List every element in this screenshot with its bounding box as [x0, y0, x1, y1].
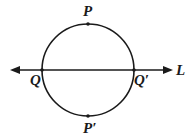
label-line-l: L — [175, 62, 185, 78]
label-p: P — [83, 3, 93, 19]
label-p-prime: P′ — [83, 120, 96, 136]
label-q: Q — [30, 72, 41, 88]
point-p-prime-dot — [86, 114, 90, 118]
arrowhead-right-icon — [163, 66, 173, 74]
point-p-dot — [86, 22, 90, 26]
diagram-canvas: P P′ Q Q′ L — [0, 0, 193, 140]
label-q-prime: Q′ — [134, 72, 149, 88]
arrowhead-left-icon — [10, 66, 20, 74]
